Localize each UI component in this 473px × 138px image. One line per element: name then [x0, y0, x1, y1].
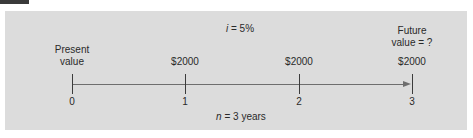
tick-1	[185, 74, 186, 94]
arrow-head-icon	[403, 81, 411, 87]
tick-0	[72, 74, 73, 94]
payment-label-1: $2000	[171, 56, 199, 68]
tick-3	[412, 74, 413, 94]
payment-label-2: $2000	[285, 56, 313, 68]
tick-label-3: 3	[409, 96, 415, 108]
payment-label-3: $2000	[398, 56, 426, 68]
future-value-label: Future value = ?	[392, 25, 433, 49]
present-value-label: Present value	[55, 44, 89, 68]
tick-2	[299, 74, 300, 94]
interest-rate-label: i = 5%	[226, 23, 254, 35]
tick-label-1: 1	[182, 96, 188, 108]
header-tab	[0, 0, 29, 4]
tick-label-0: 0	[69, 96, 75, 108]
timeline-axis	[72, 84, 407, 85]
tick-label-2: 2	[296, 96, 302, 108]
periods-label: n = 3 years	[216, 111, 266, 123]
